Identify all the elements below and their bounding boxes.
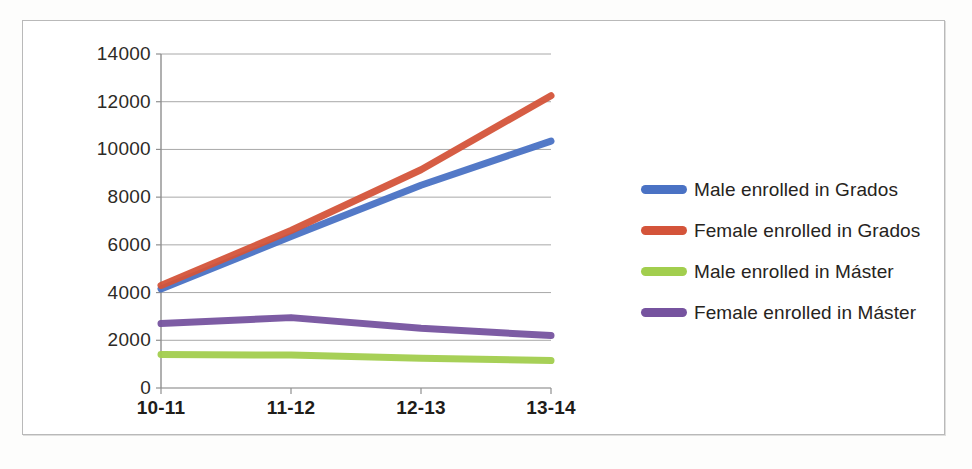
- series-line-1: [161, 96, 551, 286]
- gridlines: [161, 54, 551, 388]
- series-line-3: [161, 318, 551, 336]
- chart-legend: Male enrolled in GradosFemale enrolled i…: [641, 169, 941, 333]
- legend-color-swatch: [641, 226, 687, 235]
- y-tick-label: 4000: [51, 282, 151, 304]
- legend-item-label: Male enrolled in Máster: [694, 261, 894, 283]
- x-axis-labels: 10-1111-1212-1313-14: [161, 397, 551, 429]
- y-tick-label: 8000: [51, 186, 151, 208]
- x-tick-label: 12-13: [396, 397, 446, 419]
- series-line-2: [161, 355, 551, 361]
- y-tick-label: 2000: [51, 329, 151, 351]
- y-tick-label: 12000: [51, 91, 151, 113]
- x-tick-label: 13-14: [526, 397, 576, 419]
- legend-item: Female enrolled in Grados: [641, 210, 941, 251]
- axis-ticks: [156, 54, 551, 394]
- legend-color-swatch: [641, 185, 687, 194]
- legend-item: Female enrolled in Máster: [641, 292, 941, 333]
- y-axis-labels: 02000400060008000100001200014000: [43, 54, 151, 388]
- legend-item-label: Female enrolled in Grados: [694, 220, 920, 242]
- x-tick-label: 11-12: [267, 397, 316, 419]
- y-tick-label: 6000: [51, 234, 151, 256]
- legend-item: Male enrolled in Grados: [641, 169, 941, 210]
- legend-item: Male enrolled in Máster: [641, 251, 941, 292]
- y-tick-label: 0: [51, 377, 151, 399]
- data-series-lines: [161, 96, 551, 361]
- x-tick-label: 10-11: [137, 397, 186, 419]
- page-background: 02000400060008000100001200014000 10-1111…: [0, 0, 972, 469]
- legend-color-swatch: [641, 308, 687, 317]
- series-line-0: [161, 141, 551, 289]
- legend-item-label: Female enrolled in Máster: [694, 302, 916, 324]
- chart-frame: 02000400060008000100001200014000 10-1111…: [22, 20, 945, 435]
- y-tick-label: 14000: [51, 43, 151, 65]
- legend-item-label: Male enrolled in Grados: [694, 179, 898, 201]
- plot-area: [161, 54, 551, 388]
- chart-plot-svg: [161, 54, 551, 388]
- legend-color-swatch: [641, 267, 687, 276]
- y-tick-label: 10000: [51, 138, 151, 160]
